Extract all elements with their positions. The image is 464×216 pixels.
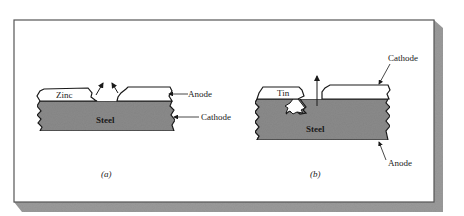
figure: Zinc Steel Anode Cathode (a) Tin Steel C… [0,0,464,216]
coating-label-b: Tin [277,88,290,98]
substrate-label-b: Steel [306,124,325,134]
callout-label-cathode-b: Cathode [388,53,418,63]
caption-b: (b) [310,169,321,179]
callout-label-cathode-a: Cathode [201,112,231,122]
coating-label-a: Zinc [56,90,73,100]
tin-coating-right [322,85,390,99]
substrate-label-a: Steel [96,115,115,125]
callout-label-anode-a: Anode [188,89,212,99]
zinc-coating-right [117,87,172,101]
caption-a: (a) [101,169,112,179]
callout-label-anode-b: Anode [388,158,412,168]
